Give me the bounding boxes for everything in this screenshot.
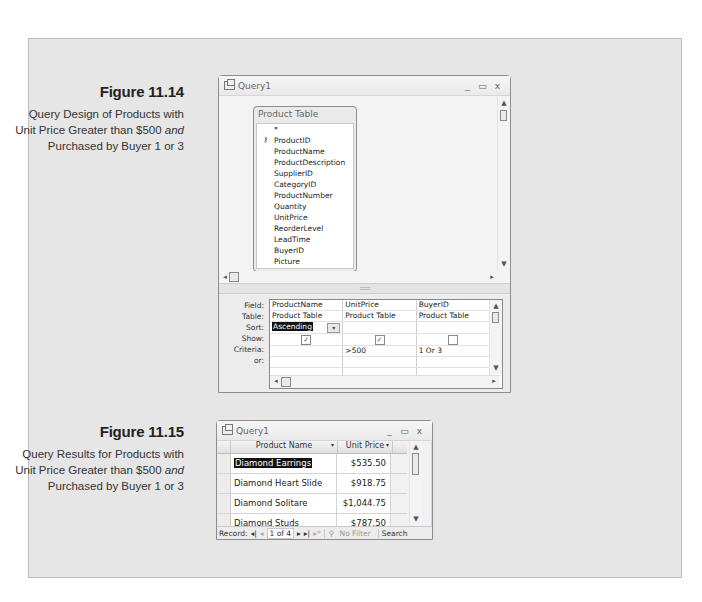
show-checkbox-unchecked[interactable] [448,335,458,345]
grid-vertical-scrollbar[interactable]: ▲ ▼ [489,300,502,374]
field-label: ProductNumber [274,191,333,200]
criteria-cell[interactable]: 1 Or 3 [416,346,489,357]
sort-cell[interactable] [416,322,489,334]
product-name-cell[interactable]: Diamond Solitare Earrings [231,494,337,513]
scroll-up-icon[interactable]: ▲ [498,98,510,108]
scroll-thumb[interactable] [281,377,291,387]
new-record-button[interactable]: ▸* [313,529,321,538]
window-title: Query1 [238,81,460,91]
field-list: * ⚷ProductID ProductName ProductDescript… [256,123,354,269]
field-item[interactable]: * [257,124,353,135]
last-record-button[interactable]: ▸| [304,529,310,538]
field-item[interactable]: BuyerID [257,245,353,256]
product-table-box[interactable]: Product Table * ⚷ProductID ProductName P… [253,106,357,272]
product-name-cell[interactable]: Diamond Heart Slide [231,474,337,493]
scroll-down-icon[interactable]: ▼ [410,514,422,524]
record-position-input[interactable]: 1 of 4 [267,528,295,539]
show-checkbox-checked[interactable]: ✓ [375,335,385,345]
or-cell[interactable] [343,357,416,368]
or-cell[interactable] [270,357,343,368]
row-selector[interactable] [217,454,231,473]
desc-part: Query Results for Products with Unit Pri… [15,448,184,476]
unit-price-cell[interactable]: $1,044.75 [337,494,391,513]
close-button[interactable]: x [490,81,505,91]
field-item[interactable]: CategoryID [257,179,353,190]
scroll-right-icon[interactable]: ▸ [488,376,500,386]
minimize-button[interactable]: _ [460,81,475,91]
record-label: Record: [219,529,247,538]
field-item[interactable]: SupplierID [257,168,353,179]
scroll-thumb[interactable] [412,453,419,475]
minimize-button[interactable]: _ [382,426,397,436]
product-name-cell[interactable]: Diamond Earrings [231,454,337,473]
field-item[interactable]: ProductName [257,146,353,157]
field-cell[interactable]: ProductName [270,300,343,311]
row-selector[interactable] [217,494,231,513]
previous-record-button[interactable]: ◂ [260,529,264,538]
row-selector[interactable] [217,474,231,493]
field-label: LeadTime [274,235,310,244]
table-cell[interactable]: Product Table [416,311,489,322]
first-record-button[interactable]: ◂| [250,529,256,538]
no-filter-button[interactable]: ⚲ No Filter [324,529,379,538]
next-record-button[interactable]: ▸ [297,529,301,538]
table-pane: Product Table * ⚷ProductID ProductName P… [219,96,510,283]
field-item[interactable]: ProductDescription [257,157,353,168]
sort-dropdown-icon[interactable]: ▾ [331,441,334,448]
pane-splitter[interactable]: :::::::::: [219,283,510,294]
grid-horizontal-scrollbar[interactable]: ◂ ▸ [270,375,500,388]
scroll-down-icon[interactable]: ▼ [490,363,502,373]
scroll-right-icon[interactable]: ▸ [486,272,498,282]
show-checkbox-checked[interactable]: ✓ [301,335,311,345]
horizontal-scrollbar[interactable]: ◂ ▸ [219,271,498,283]
field-cell[interactable]: BuyerID [416,300,489,311]
field-item[interactable]: ⚷ProductID [257,135,353,146]
field-item[interactable]: ProductNumber [257,190,353,201]
scroll-thumb[interactable] [229,272,239,282]
field-item[interactable]: LeadTime [257,234,353,245]
desc-emphasis: and [165,124,184,136]
key-icon: ⚷ [263,135,268,146]
vertical-scrollbar[interactable]: ▲ ▼ [409,441,422,525]
scroll-thumb[interactable] [492,312,499,323]
criteria-cell[interactable]: >500 [343,346,416,357]
field-item[interactable]: Quantity [257,201,353,212]
field-item[interactable]: UnitPrice [257,212,353,223]
criteria-row: >500 1 Or 3 [270,346,490,357]
dropdown-arrow-icon[interactable]: ▾ [327,323,340,333]
query-results-window: Query1 _ ▭ x Product Name▾ Unit Price▾ D… [216,420,433,540]
figure-11-14-caption: Figure 11.14 Query Design of Products wi… [14,83,184,154]
maximize-button[interactable]: ▭ [397,426,412,436]
table-row[interactable]: Diamond Earrings $535.50 [217,454,407,474]
close-button[interactable]: x [412,426,427,436]
table-cell[interactable]: Product Table [343,311,416,322]
maximize-button[interactable]: ▭ [475,81,490,91]
scroll-up-icon[interactable]: ▲ [490,301,502,311]
sort-cell[interactable]: Ascending▾ [270,322,343,334]
sort-value[interactable]: Ascending [272,322,313,331]
unit-price-cell[interactable]: $918.75 [337,474,391,493]
sort-cell[interactable] [343,322,416,334]
vertical-scrollbar[interactable]: ▲ ▼ [497,96,510,271]
select-all-corner[interactable] [217,441,231,453]
table-cell[interactable]: Product Table [270,311,343,322]
scroll-thumb[interactable] [500,110,507,121]
scroll-up-icon[interactable]: ▲ [410,442,422,452]
table-row[interactable]: Diamond Solitare Earrings $1,044.75 [217,494,407,514]
criteria-cell[interactable] [270,346,343,357]
window-titlebar[interactable]: Query1 _ ▭ x [217,421,432,441]
field-cell[interactable]: UnitPrice [343,300,416,311]
sort-dropdown-icon[interactable]: ▾ [386,441,389,448]
field-item[interactable]: ReorderLevel [257,223,353,234]
table-box-title: Product Table [254,107,356,122]
scroll-down-icon[interactable]: ▼ [498,259,510,269]
window-titlebar[interactable]: Query1 _ ▭ x [219,76,510,96]
search-field[interactable]: Search [382,529,408,538]
column-header-product-name[interactable]: Product Name▾ [231,441,338,453]
field-item[interactable]: Picture [257,256,353,267]
or-cell[interactable] [416,357,489,368]
figure-description: Query Design of Products with Unit Price… [14,106,184,154]
unit-price-cell[interactable]: $535.50 [337,454,391,473]
table-row[interactable]: Diamond Heart Slide $918.75 [217,474,407,494]
column-header-unit-price[interactable]: Unit Price▾ [338,441,393,453]
